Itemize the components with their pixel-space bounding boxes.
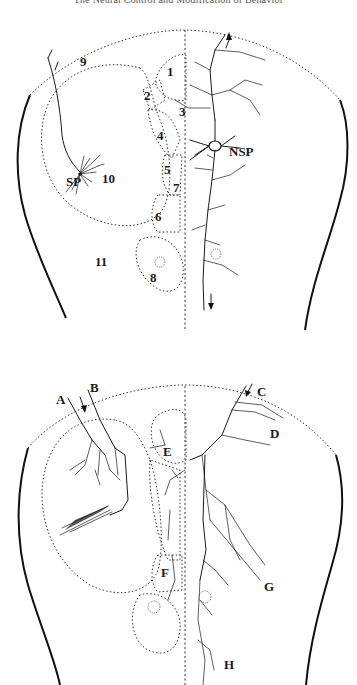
- sp-neuron: [48, 50, 104, 194]
- region-label-6: 6: [155, 209, 162, 224]
- region-label-1: 1: [167, 64, 174, 79]
- fiber-label-a: A: [56, 392, 66, 407]
- region-label-7: 7: [173, 180, 180, 195]
- region-4-boundary: [148, 110, 180, 158]
- region-label-8: 8: [150, 270, 157, 285]
- region-label-3: 3: [179, 104, 186, 119]
- fiber-label-c: C: [257, 384, 266, 399]
- bottom-lateral-boundary: [42, 419, 161, 593]
- bottom-right-contour: [306, 455, 342, 685]
- nsp-label: NSP: [229, 144, 254, 159]
- fiber-tree-right: [148, 386, 283, 685]
- c-arrow-shaft: [248, 384, 252, 392]
- c-down-arrow-icon: [245, 390, 251, 397]
- fiber-label-g: G: [264, 579, 274, 594]
- region-label-2: 2: [144, 88, 151, 103]
- region-label-4: 4: [157, 128, 164, 143]
- ab-down-arrow-icon: [81, 405, 87, 413]
- figure-canvas: 9 1 2 3 4 5 7 6 8 10 11 SP NSP: [0, 0, 357, 685]
- bottom-dorsal-boundary: [28, 385, 336, 455]
- top-left-contour: [18, 95, 66, 318]
- region-10-boundary: [42, 65, 170, 226]
- fiber-label-e: E: [163, 444, 172, 459]
- fiber-ab: [60, 390, 128, 535]
- region-label-10: 10: [102, 171, 115, 186]
- region-8-boundary: [136, 237, 183, 291]
- sp-label: SP: [66, 174, 81, 189]
- top-figure: 9 1 2 3 4 5 7 6 8 10 11 SP NSP: [18, 30, 348, 330]
- fiber-label-f: F: [161, 565, 169, 580]
- fiber-label-d: D: [270, 426, 279, 441]
- bottom-ventral-boundary: [132, 594, 180, 653]
- region-label-11: 11: [95, 254, 107, 269]
- region-label-5: 5: [164, 162, 171, 177]
- fiber-label-h: H: [224, 657, 234, 672]
- top-down-arrow-icon: [208, 303, 214, 310]
- region-label-9: 9: [80, 54, 87, 69]
- bottom-left-contour: [19, 448, 60, 685]
- fiber-label-b: B: [90, 380, 99, 395]
- top-right-contour: [305, 100, 348, 330]
- bottom-figure: A B C D E F G H: [19, 380, 343, 685]
